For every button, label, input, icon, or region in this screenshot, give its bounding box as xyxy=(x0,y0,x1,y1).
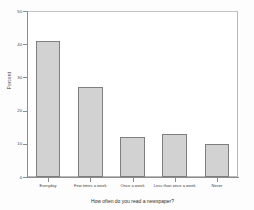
x-category-label: Once a week xyxy=(111,183,153,188)
y-tick-mark xyxy=(23,144,27,145)
x-category-label: Everyday xyxy=(27,183,69,188)
x-tick-mark xyxy=(217,178,218,182)
x-category-label: Never xyxy=(196,183,238,188)
x-tick-mark xyxy=(48,178,49,182)
y-axis-title: Percent xyxy=(7,58,12,104)
bar xyxy=(205,144,229,177)
y-tick-mark xyxy=(23,77,27,78)
x-category-label: Few times a week xyxy=(69,183,111,188)
y-tick-mark xyxy=(23,44,27,45)
y-tick-label: 0 xyxy=(0,175,22,180)
x-tick-mark xyxy=(90,178,91,182)
bar xyxy=(162,134,186,177)
y-tick-label: 20 xyxy=(0,108,22,113)
y-tick-mark xyxy=(23,177,27,178)
y-tick-mark xyxy=(23,111,27,112)
y-axis-line xyxy=(27,11,28,178)
x-category-label: Less than once a week xyxy=(154,183,196,188)
bar xyxy=(36,41,60,177)
x-tick-mark xyxy=(175,178,176,182)
x-tick-mark xyxy=(133,178,134,182)
y-tick-label: 50 xyxy=(0,9,22,14)
y-tick-label: 40 xyxy=(0,42,22,47)
bar xyxy=(120,137,144,177)
bar-chart: 01020304050 EverydayFew times a weekOnce… xyxy=(0,0,254,210)
y-tick-label: 10 xyxy=(0,141,22,146)
x-axis-title: How often do you read a newspaper? xyxy=(27,198,238,204)
bar xyxy=(78,87,102,177)
y-tick-mark xyxy=(23,11,27,12)
